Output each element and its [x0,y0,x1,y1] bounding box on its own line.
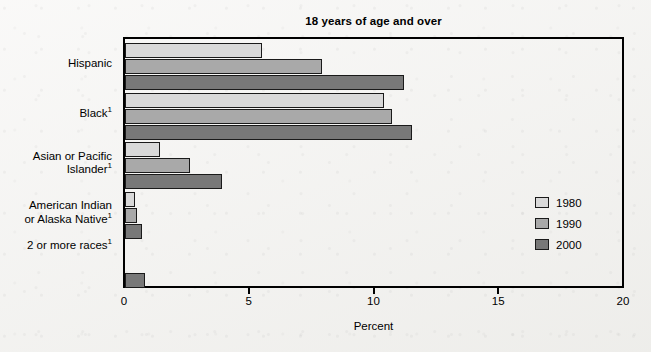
y-axis-label: 2 or more races1 [0,239,118,253]
bar [125,142,160,157]
bar [125,158,190,173]
x-axis-tick-mark [248,288,250,294]
bar [125,208,137,223]
bar [125,224,142,239]
y-axis-label: Hispanic [0,57,118,71]
legend-item: 1990 [535,213,582,234]
bar [125,192,135,207]
legend-label: 1990 [556,218,582,230]
x-axis-tick-label: 10 [354,295,394,307]
legend-swatch [535,197,549,208]
x-axis-tick-mark [373,288,375,294]
x-axis-tick-mark [497,288,499,294]
chart-title: 18 years of age and over [123,14,624,28]
bar [125,75,404,90]
bar [125,174,222,189]
legend-label: 2000 [556,239,582,251]
bar [125,93,384,108]
bar [125,125,412,140]
legend-item: 1980 [535,192,582,213]
bar [125,273,145,288]
legend-item: 2000 [535,234,582,255]
x-axis-tick-label: 5 [229,295,269,307]
legend-swatch [535,239,549,250]
legend: 198019902000 [535,192,582,255]
bar [125,59,322,74]
bar [125,109,392,124]
x-axis-title: Percent [123,320,624,332]
x-axis-tick-label: 15 [478,295,518,307]
y-axis-label: American Indianor Alaska Native1 [0,199,118,226]
legend-label: 1980 [556,197,582,209]
x-axis-tick-label: 0 [104,295,144,307]
bar-chart: 18 years of age and over HispanicBlack1A… [0,0,651,352]
bar [125,43,262,58]
legend-swatch [535,218,549,229]
x-axis-tick-label: 20 [603,295,643,307]
y-axis-label: Asian or PacificIslander1 [0,150,118,177]
y-axis-label: Black1 [0,107,118,121]
